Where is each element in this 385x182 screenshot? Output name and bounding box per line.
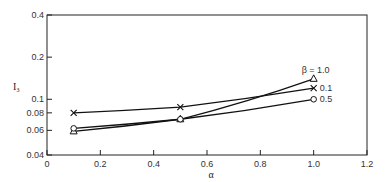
x-tick-label: 0.8 — [254, 159, 267, 169]
x-axis-label: α — [208, 169, 214, 180]
series-line — [74, 88, 314, 113]
circle-marker — [71, 126, 77, 132]
x-tick-label: 0.6 — [201, 159, 214, 169]
circle-marker — [311, 96, 317, 102]
circle-marker — [178, 116, 184, 122]
x-tick-label: 0 — [44, 159, 49, 169]
series-labels: β = 1.00.10.5 — [302, 65, 333, 104]
series-label: 0.5 — [320, 94, 333, 104]
x-tick-label: 1.2 — [361, 159, 374, 169]
y-axis-ticks: 0.040.060.080.10.20.4 — [26, 10, 52, 160]
x-axis-ticks: 00.20.40.60.81.01.2 — [44, 150, 373, 169]
series-label: 0.1 — [320, 83, 333, 93]
series-label: β = 1.0 — [302, 65, 330, 75]
y-tick-label: 0.4 — [31, 10, 44, 20]
triangle-marker — [310, 75, 317, 82]
y-tick-label: 0.04 — [26, 150, 44, 160]
series-line — [74, 99, 314, 128]
y-tick-label: 0.08 — [26, 108, 44, 118]
chart: 0.040.060.080.10.20.4 00.20.40.60.81.01.… — [0, 0, 385, 182]
x-tick-label: 0.4 — [147, 159, 160, 169]
series-lines — [70, 75, 317, 134]
y-tick-label: 0.2 — [31, 52, 44, 62]
y-tick-label: 0.06 — [26, 125, 44, 135]
y-axis-label: I₃ — [13, 81, 20, 92]
y-tick-label: 0.1 — [31, 94, 44, 104]
x-tick-label: 0.2 — [94, 159, 107, 169]
x-tick-label: 1.0 — [307, 159, 320, 169]
